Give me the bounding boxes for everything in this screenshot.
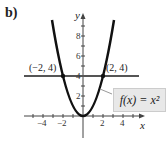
x-tick-neg2: −2 [57, 118, 67, 128]
y-tick-8: 8 [76, 31, 81, 41]
point-label-right: (2, 4) [106, 62, 128, 73]
x-axis-label: x [140, 119, 145, 131]
x-tick-2: 2 [100, 118, 105, 128]
x-tick-neg4: −4 [37, 118, 47, 128]
y-axis-label: y [75, 9, 80, 21]
y-tick-6: 6 [76, 51, 81, 61]
point-label-left: (−2, 4) [29, 62, 56, 73]
function-label-box: f(x) = x² [113, 88, 166, 112]
y-tick-2: 2 [76, 91, 81, 101]
y-tick-4: 4 [76, 71, 81, 81]
x-tick-4: 4 [120, 118, 125, 128]
